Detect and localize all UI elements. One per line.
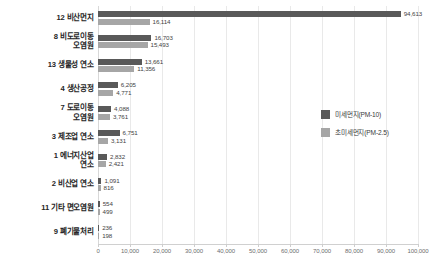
bar-group: 2,8322,421: [98, 149, 418, 173]
x-axis-tick-mark: [354, 244, 355, 247]
x-axis-tick-label: 40,000: [217, 247, 235, 255]
legend-swatch-icon: [321, 128, 330, 137]
chart-legend: 미세먼지(PM-10)초미세먼지(PM-2.5): [321, 110, 389, 146]
x-axis-tick-label: 0: [96, 247, 99, 255]
bar-value-label: 816: [104, 185, 114, 191]
category-label: 11 기타 면오염원: [0, 203, 94, 212]
x-axis-tick-mark: [162, 244, 163, 247]
bar-pm25: [98, 209, 100, 215]
x-axis-tick-label: 30,000: [185, 247, 203, 255]
bar-pm25: [98, 90, 113, 96]
x-axis-tick-mark: [98, 244, 99, 247]
bar-value-label: 94,613: [404, 11, 422, 17]
bar-pm10: [98, 106, 111, 112]
x-axis-tick-mark: [386, 244, 387, 247]
bar-value-label: 2,832: [110, 154, 125, 160]
x-axis-tick-label: 80,000: [345, 247, 363, 255]
bar-group: 13,66111,356: [98, 54, 418, 78]
bar-pm10: [98, 59, 142, 65]
x-axis-tick-mark: [130, 244, 131, 247]
x-axis-tick-label: 10,000: [121, 247, 139, 255]
legend-swatch-icon: [321, 110, 330, 119]
x-axis-tick-label: 70,000: [313, 247, 331, 255]
bar-pm25: [98, 19, 150, 25]
category-label: 7 도로이동 오염원: [0, 103, 94, 122]
bar-pm10: [98, 201, 100, 207]
x-axis-tick-label: 100,000: [408, 247, 429, 255]
bar-pm25: [98, 233, 99, 239]
x-axis-tick-label: 20,000: [153, 247, 171, 255]
x-axis-tick-mark: [418, 244, 419, 247]
category-axis-labels: 12 비산먼지8 비도로이동 오염원13 생물성 연소4 생산공정7 도로이동 …: [0, 6, 94, 244]
bar-pm25: [98, 66, 134, 72]
bar-value-label: 1,091: [104, 178, 119, 184]
bar-pm10: [98, 11, 401, 17]
bar-value-label: 13,661: [145, 59, 163, 65]
bar-value-label: 6,205: [121, 82, 136, 88]
gridline: [418, 6, 419, 244]
category-label: 1 에너지산업 연소: [0, 151, 94, 170]
bar-pm25: [98, 185, 101, 191]
bar-pm10: [98, 154, 107, 160]
x-axis-tick-labels: 010,00020,00030,00040,00050,00060,00070,…: [98, 247, 418, 261]
category-label: 4 생산공정: [0, 84, 94, 93]
x-axis-tick-mark: [226, 244, 227, 247]
category-label: 9 폐기물처리: [0, 227, 94, 236]
bar-value-label: 4,771: [116, 90, 131, 96]
bar-pm25: [98, 138, 108, 144]
x-axis-tick-mark: [194, 244, 195, 247]
bar-value-label: 6,751: [123, 130, 138, 136]
bar-pm25: [98, 161, 106, 167]
x-axis-tick-label: 60,000: [281, 247, 299, 255]
bar-value-label: 16,703: [154, 35, 172, 41]
category-label: 13 생물성 연소: [0, 60, 94, 69]
bar-group: 554499: [98, 196, 418, 220]
x-axis-tick-mark: [290, 244, 291, 247]
category-label: 8 비도로이동 오염원: [0, 32, 94, 51]
bar-pm10: [98, 82, 118, 88]
bar-value-label: 3,131: [111, 138, 126, 144]
legend-item[interactable]: 초미세먼지(PM-2.5): [321, 128, 389, 137]
category-label: 3 제조업 연소: [0, 132, 94, 141]
category-label: 2 비산업 연소: [0, 179, 94, 188]
bar-value-label: 3,761: [113, 114, 128, 120]
bar-group: 236198: [98, 220, 418, 244]
bar-group: 16,70315,493: [98, 30, 418, 54]
bar-value-label: 236: [102, 225, 112, 231]
bar-pm25: [98, 114, 110, 120]
bar-value-label: 198: [102, 233, 112, 239]
bar-pm10: [98, 130, 120, 136]
legend-item[interactable]: 미세먼지(PM-10): [321, 110, 389, 119]
category-label: 12 비산먼지: [0, 13, 94, 22]
bar-pm25: [98, 42, 148, 48]
x-axis-tick-mark: [322, 244, 323, 247]
bar-value-label: 2,421: [109, 161, 124, 167]
legend-label: 미세먼지(PM-10): [335, 111, 381, 119]
x-axis-tick-label: 90,000: [377, 247, 395, 255]
bar-value-label: 15,493: [151, 42, 169, 48]
x-axis-tick-mark: [258, 244, 259, 247]
bar-pm10: [98, 35, 151, 41]
bar-chart: 94,61316,11416,70315,49313,66111,3566,20…: [0, 0, 432, 273]
bar-group: 1,091816: [98, 173, 418, 197]
bar-pm10: [98, 225, 99, 231]
legend-label: 초미세먼지(PM-2.5): [335, 129, 389, 137]
bar-value-label: 554: [103, 201, 113, 207]
bar-pm10: [98, 178, 101, 184]
bar-value-label: 4,088: [114, 106, 129, 112]
bar-value-label: 16,114: [153, 19, 171, 25]
bar-value-label: 499: [103, 209, 113, 215]
bar-group: 94,61316,114: [98, 6, 418, 30]
x-axis-tick-label: 50,000: [249, 247, 267, 255]
bar-group: 6,2054,771: [98, 77, 418, 101]
bar-value-label: 11,356: [137, 66, 155, 72]
